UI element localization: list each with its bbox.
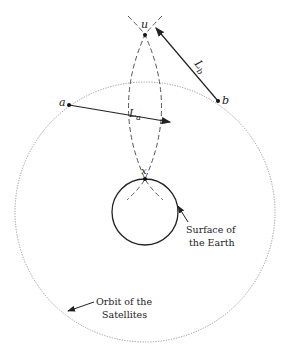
label-u: u <box>141 18 148 31</box>
point-u <box>143 33 147 37</box>
vector-la <box>69 105 170 122</box>
point-b <box>216 99 220 103</box>
svg-text:a: a <box>136 113 141 122</box>
orbit-caption-line1: Orbit of the <box>96 296 152 307</box>
earth-surface <box>112 179 178 245</box>
point-x <box>143 177 147 181</box>
vector-lb <box>156 28 218 101</box>
earth-pointer-arrow <box>178 206 188 222</box>
label-b: b <box>222 94 229 107</box>
orbit-pointer-arrow <box>68 302 94 311</box>
label-lb: L b <box>190 57 210 77</box>
point-a <box>67 103 71 107</box>
earth-caption-line1: Surface of <box>186 224 237 235</box>
label-la: L a <box>128 107 141 122</box>
earth-caption-line2: the Earth <box>189 237 235 248</box>
label-a: a <box>59 96 66 109</box>
diagram-canvas: u a b x L a L b Surface of the Earth Orb… <box>0 0 287 358</box>
label-x: x <box>141 165 147 176</box>
orbit-caption-line2: Satellites <box>102 309 147 320</box>
